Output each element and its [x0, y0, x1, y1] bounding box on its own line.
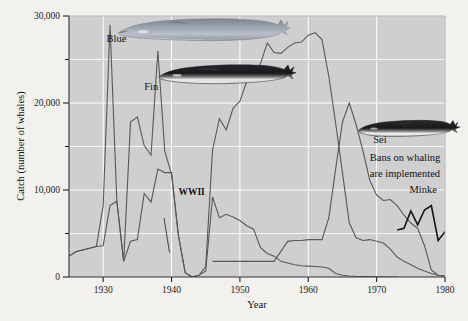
sei-label: Sei — [373, 134, 387, 145]
whale-catch-chart: 010,00020,00030,000 19301940195019601970… — [0, 0, 468, 321]
bans-annotation-line2: are implemented — [370, 168, 441, 179]
blue-label: Blue — [107, 33, 127, 44]
x-tick-label: 1980 — [436, 285, 455, 295]
x-tick-label: 1970 — [367, 285, 386, 295]
y-axis-title: Catch (number of whales) — [15, 91, 27, 201]
y-tick-label: 0 — [55, 272, 60, 282]
x-tick-label: 1950 — [230, 285, 249, 295]
chart-svg: 010,00020,00030,000 19301940195019601970… — [0, 0, 468, 321]
x-tick-label: 1930 — [94, 285, 113, 295]
x-axis-title: Year — [247, 299, 267, 310]
wwii-label: WWII — [178, 187, 205, 197]
y-tick-label: 30,000 — [34, 11, 60, 21]
y-tick-label: 10,000 — [34, 185, 60, 195]
fin-label: Fin — [144, 81, 159, 92]
y-tick-label: 20,000 — [34, 98, 60, 108]
x-tick-label: 1960 — [299, 285, 318, 295]
bans-annotation-line1: Bans on whaling — [370, 152, 441, 163]
x-tick-label: 1940 — [162, 285, 181, 295]
minke-label: Minke — [409, 184, 437, 195]
